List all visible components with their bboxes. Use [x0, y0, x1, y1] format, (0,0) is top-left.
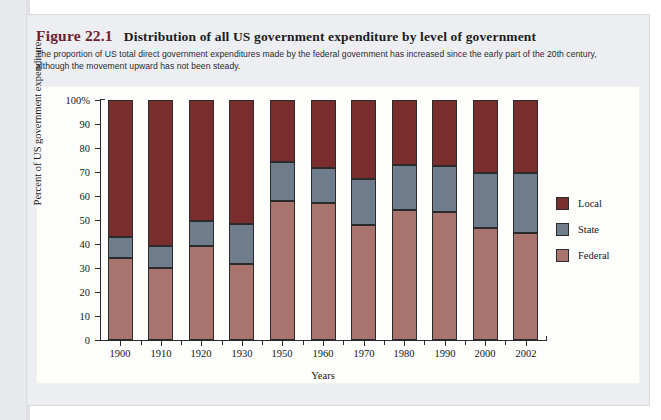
y-axis-line [100, 99, 101, 341]
bar-segment-federal[interactable] [392, 210, 417, 340]
bar-segment-federal[interactable] [270, 201, 295, 340]
y-axis-tick-label: 0 [44, 335, 90, 346]
bar-segment-local[interactable] [148, 100, 173, 246]
x-axis-minor-tick [181, 341, 182, 345]
x-axis-tick [445, 341, 446, 346]
y-axis-tick [95, 172, 100, 173]
bar-group[interactable] [270, 100, 295, 340]
figure-caption: The proportion of US total direct govern… [36, 48, 620, 72]
bar-segment-local[interactable] [432, 100, 457, 166]
legend-item[interactable]: State [556, 216, 636, 242]
bar-group[interactable] [473, 100, 498, 340]
x-axis-tick [364, 341, 365, 346]
bar-group[interactable] [513, 100, 538, 340]
bar-group[interactable] [392, 100, 417, 340]
bar-segment-state[interactable] [189, 221, 214, 246]
x-axis-minor-tick [384, 341, 385, 345]
x-axis-minor-tick [222, 341, 223, 345]
bar-segment-federal[interactable] [311, 203, 336, 340]
y-axis-tick [95, 124, 100, 125]
y-axis-tick [95, 148, 100, 149]
bar-group[interactable] [189, 100, 214, 340]
bar-segment-federal[interactable] [108, 258, 133, 340]
figure-header: Figure 22.1Distribution of all US govern… [36, 27, 636, 72]
bar-segment-federal[interactable] [513, 233, 538, 340]
x-axis-tick [120, 341, 121, 346]
bar-segment-state[interactable] [108, 237, 133, 259]
chart-legend: LocalStateFederal [556, 190, 636, 268]
x-axis-tick [161, 341, 162, 346]
y-axis-tick [95, 340, 100, 341]
x-axis-tick-label: 2002 [500, 348, 552, 359]
legend-item[interactable]: Federal [556, 242, 636, 268]
legend-item-label: Federal [578, 250, 610, 261]
figure-title: Distribution of all US government expend… [124, 29, 536, 44]
y-axis-tick-label: 50 [44, 215, 90, 226]
bar-segment-state[interactable] [473, 173, 498, 228]
bar-segment-federal[interactable] [229, 264, 254, 340]
y-axis-tick [95, 316, 100, 317]
bar-segment-local[interactable] [311, 100, 336, 168]
y-axis-tick [95, 100, 100, 101]
bar-segment-local[interactable] [229, 100, 254, 224]
legend-swatch-icon [556, 249, 569, 262]
bar-segment-local[interactable] [189, 100, 214, 221]
x-axis-right-cap [546, 336, 547, 341]
y-axis-tick-label: 60 [44, 191, 90, 202]
x-axis-tick [526, 341, 527, 346]
bar-segment-federal[interactable] [148, 268, 173, 340]
x-axis-minor-tick [141, 341, 142, 345]
y-axis-title: Percent of US government expenditure [32, 19, 43, 229]
bar-segment-local[interactable] [473, 100, 498, 173]
y-axis-tick [95, 268, 100, 269]
y-axis-tick [95, 220, 100, 221]
x-axis-title: Years [100, 370, 546, 381]
bar-group[interactable] [148, 100, 173, 340]
bar-group[interactable] [311, 100, 336, 340]
y-axis-tick [95, 196, 100, 197]
bar-segment-federal[interactable] [432, 212, 457, 340]
y-axis-top-cap [100, 99, 105, 100]
figure-page: Figure 22.1Distribution of all US govern… [0, 0, 661, 420]
bar-group[interactable] [432, 100, 457, 340]
bar-segment-local[interactable] [513, 100, 538, 173]
y-axis-tick-label: 20 [44, 287, 90, 298]
y-axis-tick [95, 244, 100, 245]
x-axis-minor-tick [262, 341, 263, 345]
legend-item-label: State [578, 224, 599, 235]
figure-number: Figure 22.1 [36, 27, 113, 44]
x-axis-tick [404, 341, 405, 346]
bar-segment-federal[interactable] [189, 246, 214, 340]
x-axis-minor-tick [343, 341, 344, 345]
bar-segment-state[interactable] [432, 166, 457, 212]
legend-item[interactable]: Local [556, 190, 636, 216]
bar-segment-federal[interactable] [351, 225, 376, 340]
bar-segment-state[interactable] [351, 179, 376, 225]
bar-segment-local[interactable] [270, 100, 295, 162]
y-axis-tick-label: 30 [44, 263, 90, 274]
legend-swatch-icon [556, 223, 569, 236]
bar-segment-local[interactable] [392, 100, 417, 165]
bar-segment-state[interactable] [311, 168, 336, 203]
x-axis-minor-tick [424, 341, 425, 345]
bar-segment-federal[interactable] [473, 228, 498, 340]
x-axis-minor-tick [465, 341, 466, 345]
x-axis-tick [323, 341, 324, 346]
bar-group[interactable] [229, 100, 254, 340]
bar-segment-state[interactable] [270, 162, 295, 200]
bar-group[interactable] [351, 100, 376, 340]
bar-segment-state[interactable] [229, 224, 254, 265]
y-axis-tick-label: 70 [44, 167, 90, 178]
bar-segment-state[interactable] [148, 246, 173, 268]
y-axis-tick-label: 100% [44, 95, 90, 106]
y-axis-tick-label: 40 [44, 239, 90, 250]
y-axis-tick [95, 292, 100, 293]
bar-segment-state[interactable] [513, 173, 538, 233]
y-axis-tick-label: 80 [44, 143, 90, 154]
bar-group[interactable] [108, 100, 133, 340]
bar-segment-local[interactable] [108, 100, 133, 237]
legend-swatch-icon [556, 197, 569, 210]
bar-segment-state[interactable] [392, 165, 417, 211]
x-axis-tick [485, 341, 486, 346]
bar-segment-local[interactable] [351, 100, 376, 179]
